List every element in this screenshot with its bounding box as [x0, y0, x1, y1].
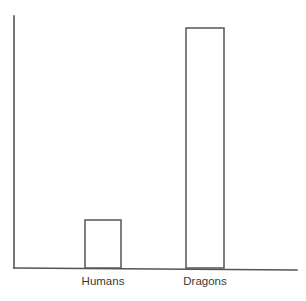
x-tick-label-humans: Humans	[82, 275, 125, 287]
bar-chart: Humans Dragons	[0, 0, 306, 301]
x-tick-label-dragons: Dragons	[183, 275, 227, 287]
bar-humans	[85, 220, 121, 268]
x-axis-line	[14, 268, 297, 270]
chart-canvas: Humans Dragons	[0, 0, 306, 301]
bar-dragons	[186, 28, 224, 268]
